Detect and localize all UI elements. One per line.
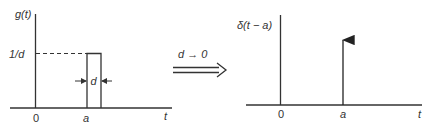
right-y-label: δ(t − a) [237, 19, 272, 31]
double-arrow-right-icon [173, 63, 226, 77]
right-plot: δ(t − a) 0 a t [237, 15, 422, 120]
width-label: d [91, 75, 98, 87]
left-plot: g(t) 1/d d 0 a t [9, 8, 172, 124]
left-tick-zero: 0 [33, 112, 39, 124]
transition-label: d → 0 [178, 48, 208, 60]
right-tick-a: a [340, 108, 346, 120]
delta-function-diagram: g(t) 1/d d 0 a t d → 0 δ(t − a) 0 a t [0, 0, 435, 130]
right-tick-zero: 0 [278, 108, 284, 120]
level-label: 1/d [9, 48, 25, 60]
right-x-label: t [418, 108, 422, 120]
left-x-label: t [164, 110, 168, 122]
left-y-label: g(t) [15, 8, 32, 20]
left-tick-a: a [83, 112, 89, 124]
transition: d → 0 [173, 48, 226, 77]
